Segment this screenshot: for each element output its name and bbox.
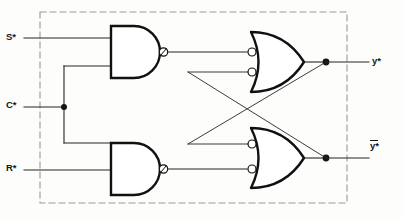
output-label-y-bar-wrap: y* xyxy=(370,141,379,151)
or-top-input-bubble-upper xyxy=(248,48,256,56)
or-gate-top xyxy=(251,32,304,92)
input-label-c: C* xyxy=(6,100,17,110)
overbar xyxy=(370,140,378,141)
input-label-s-text: S* xyxy=(6,31,16,42)
nand-gate-top xyxy=(111,26,160,78)
input-label-c-text: C* xyxy=(6,99,17,110)
input-label-s: S* xyxy=(6,32,16,42)
or-gate-bottom xyxy=(251,128,304,188)
or-bottom-input-bubble-upper xyxy=(248,140,256,148)
nand-gate-bottom xyxy=(111,143,160,195)
input-label-r: R* xyxy=(6,163,17,173)
or-top-input-bubble-lower xyxy=(248,68,256,76)
output-label-y: y* xyxy=(372,56,381,66)
output-label-y-bar: y* xyxy=(370,141,379,151)
output-label-y-bar-text: y* xyxy=(370,140,379,151)
output-label-y-text: y* xyxy=(372,55,381,66)
input-label-r-text: R* xyxy=(6,162,17,173)
module-boundary xyxy=(40,12,347,203)
circuit-canvas xyxy=(0,0,403,219)
logic-diagram: S* C* R* y* y* xyxy=(0,0,403,219)
junction-dot-c xyxy=(61,104,67,110)
or-bottom-input-bubble-lower xyxy=(248,165,256,173)
